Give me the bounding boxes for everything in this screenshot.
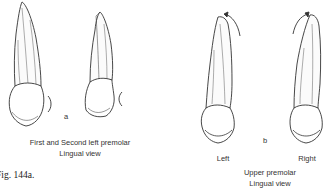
tooth-second-premolar [85, 12, 122, 117]
panel-a-caption-line2: Lingual view [2, 149, 158, 158]
panel-b-letter: b [263, 136, 267, 145]
panel-b-right-label: Right [292, 154, 322, 163]
panel-a-caption-line1: First and Second left premolar [2, 138, 158, 147]
tooth-upper-premolar-right [290, 12, 322, 143]
panel-a-letter: a [64, 112, 68, 121]
panel-b-caption-line2: Lingual view [230, 179, 310, 188]
tooth-first-premolar [9, 2, 51, 126]
figure-label: Fig. 144a. [0, 170, 34, 180]
panel-b-caption-line1: Upper premolar [230, 168, 310, 177]
panel-b-left-label: Left [208, 154, 238, 163]
tooth-illustrations [0, 0, 324, 189]
tooth-upper-premolar-left [201, 12, 240, 143]
